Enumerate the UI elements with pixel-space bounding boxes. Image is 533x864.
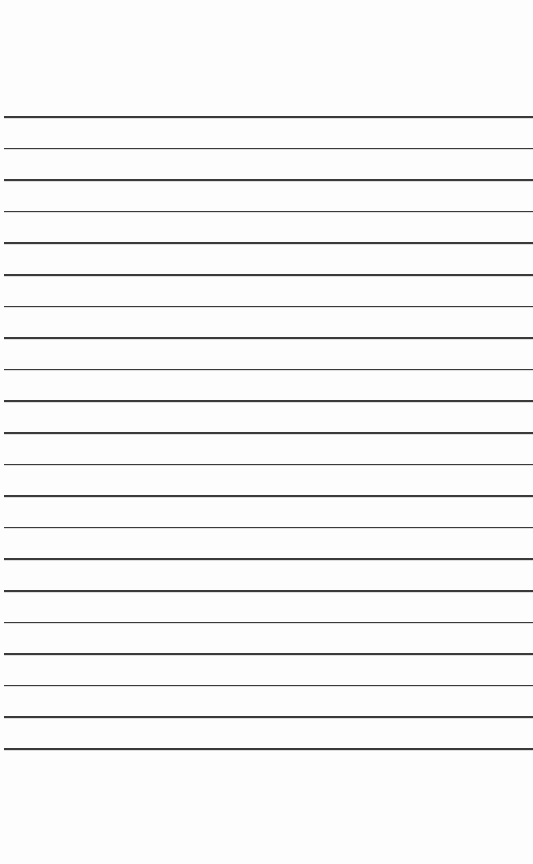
ruled-line — [4, 179, 533, 181]
ruled-line — [4, 622, 533, 624]
ruled-line — [4, 558, 533, 560]
ruled-line — [4, 211, 533, 213]
ruled-line — [4, 464, 533, 466]
ruled-line — [4, 148, 533, 150]
ruled-line — [4, 495, 533, 497]
ruled-line — [4, 116, 533, 118]
ruled-line — [4, 432, 533, 434]
ruled-line — [4, 274, 533, 276]
lined-paper-sheet — [0, 0, 533, 864]
ruled-line — [4, 685, 533, 687]
ruled-line — [4, 748, 533, 750]
ruled-line — [4, 337, 533, 339]
ruled-line — [4, 527, 533, 529]
ruled-line — [4, 242, 533, 244]
ruled-line — [4, 400, 533, 402]
ruled-line — [4, 306, 533, 308]
ruled-line — [4, 369, 533, 371]
ruled-line — [4, 716, 533, 718]
ruled-line — [4, 590, 533, 592]
ruled-line — [4, 653, 533, 655]
